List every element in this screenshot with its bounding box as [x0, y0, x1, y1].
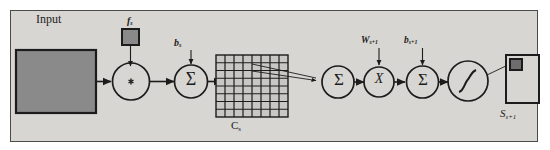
input-image-rect — [16, 50, 96, 113]
bias-add-glyph: Σ — [411, 71, 435, 88]
bias-next-subscript: s+1 — [409, 39, 418, 45]
input-label: Input — [36, 13, 61, 25]
pool-sum-glyph: Σ — [327, 71, 351, 88]
bias-label: bs — [174, 38, 181, 49]
output-subscript: s+1 — [506, 113, 517, 120]
output-map-cell — [510, 59, 522, 70]
feature-map-subscript: s — [238, 125, 241, 132]
activation-circle — [448, 61, 488, 101]
bias-subscript: s — [179, 41, 181, 48]
figure-canvas: Input fs bs Cs Ws+1 bs+1 Ss+1 Σ Σ X Σ — [0, 0, 550, 150]
diagram-vector-layer — [0, 0, 550, 150]
bias-next-label: bs+1 — [404, 36, 417, 46]
weight-next-label: Ws+1 — [361, 36, 378, 46]
weight-next-subscript: s+1 — [369, 39, 378, 45]
output-label: Ss+1 — [500, 108, 516, 120]
weight-multiply-glyph: X — [369, 72, 389, 86]
sigmoid-icon — [459, 70, 476, 92]
asterisk-icon — [129, 79, 134, 85]
filter-subscript: s — [130, 19, 132, 26]
filter-label: fs — [127, 16, 133, 27]
feature-map-label: Cs — [231, 120, 241, 132]
sum-bias-glyph: Σ — [179, 70, 203, 88]
filter-kernel-square — [122, 29, 139, 45]
